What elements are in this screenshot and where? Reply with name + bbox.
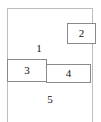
region-label-5: 5 [7,94,93,105]
box-2[interactable]: 2 [67,23,96,44]
box-label-3: 3 [8,60,46,81]
region-label-1: 1 [8,43,70,54]
box-label-4: 4 [47,65,90,82]
box-3[interactable]: 3 [7,59,47,82]
box-label-2: 2 [68,24,95,43]
diagram-canvas: 1 2 3 4 5 [0,0,101,122]
box-4[interactable]: 4 [46,64,91,83]
